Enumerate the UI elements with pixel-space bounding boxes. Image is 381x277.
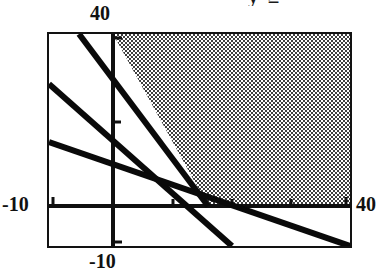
plot-surface	[49, 34, 350, 246]
y-axis-max-label: 40	[90, 2, 110, 25]
linear-programming-figure: y ≥	[0, 0, 381, 277]
y-axis-min-label: -10	[2, 193, 29, 216]
plot-svg	[49, 34, 350, 246]
title-fragment-text: y ≥	[248, 0, 338, 6]
x-axis-min-label: -10	[89, 250, 116, 273]
plot-frame	[47, 32, 352, 248]
x-axis-max-label: 40	[356, 193, 376, 216]
feasible-region-shading	[113, 34, 350, 206]
